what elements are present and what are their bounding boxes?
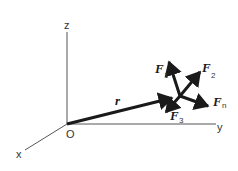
svg-text:F: F	[169, 108, 179, 123]
svg-text:3: 3	[179, 116, 184, 125]
svg-text:F: F	[212, 94, 222, 109]
svg-text:F: F	[154, 61, 164, 76]
force-label-fn: F n	[212, 94, 226, 110]
svg-text:F: F	[201, 60, 211, 75]
svg-text:n: n	[222, 101, 226, 110]
force-label-f3: F 3	[169, 108, 184, 125]
svg-text:1: 1	[164, 71, 169, 80]
force-label-f2: F 2	[201, 60, 216, 80]
position-vector-label: r	[115, 93, 121, 108]
z-axis-label: z	[64, 19, 70, 31]
svg-text:2: 2	[211, 71, 216, 80]
force-vector-f1	[169, 62, 180, 96]
x-axis-label: x	[16, 148, 22, 160]
origin-label: O	[66, 128, 75, 140]
force-diagram: z y x O r F 1 F 2 F 3 F n	[0, 0, 238, 171]
force-vector-fn	[180, 96, 208, 106]
x-axis	[25, 124, 67, 150]
y-axis-label: y	[217, 121, 223, 133]
force-vector-f2	[180, 72, 200, 96]
force-label-f1: F 1	[154, 61, 169, 80]
